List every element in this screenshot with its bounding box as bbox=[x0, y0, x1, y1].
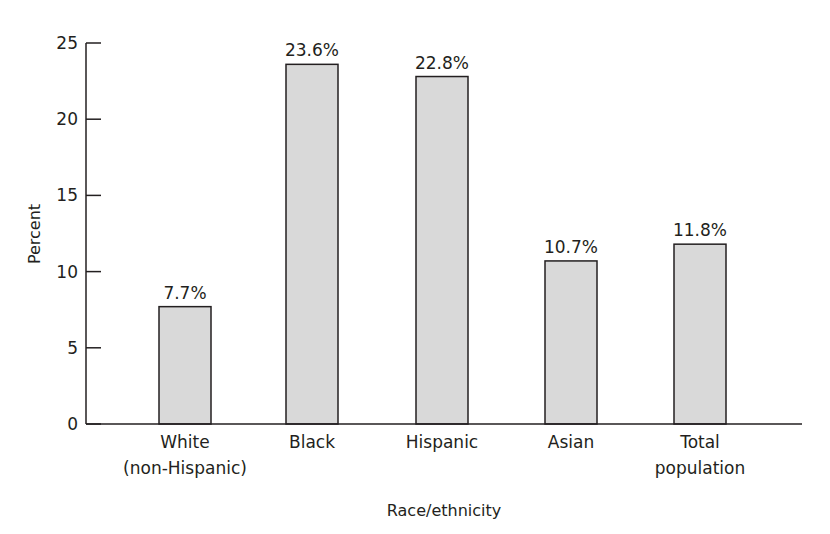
bar-value-label: 11.8% bbox=[673, 220, 727, 240]
bar-group: 11.8% bbox=[673, 220, 727, 424]
bar-value-label: 22.8% bbox=[415, 53, 469, 73]
bar bbox=[674, 244, 726, 424]
bar-group: 23.6% bbox=[285, 40, 339, 424]
bar bbox=[286, 64, 338, 424]
bar-group: 7.7% bbox=[159, 283, 211, 424]
x-axis-title: Race/ethnicity bbox=[387, 501, 501, 520]
x-category-label: population bbox=[655, 458, 745, 478]
y-tick-label: 5 bbox=[67, 338, 78, 358]
x-category-label: Asian bbox=[548, 432, 594, 452]
x-category-label: Hispanic bbox=[406, 432, 478, 452]
y-tick-label: 20 bbox=[56, 109, 78, 129]
bar-value-label: 7.7% bbox=[163, 283, 206, 303]
bar-group: 22.8% bbox=[415, 53, 469, 424]
bar-value-label: 23.6% bbox=[285, 40, 339, 60]
bar bbox=[545, 261, 597, 424]
x-category-label: White bbox=[160, 432, 209, 452]
x-category-label: Black bbox=[289, 432, 335, 452]
y-tick-label: 0 bbox=[67, 414, 78, 434]
y-tick-label: 15 bbox=[56, 185, 78, 205]
y-axis-title: Percent bbox=[25, 204, 44, 264]
x-axis: White(non-Hispanic)BlackHispanicAsianTot… bbox=[86, 424, 802, 478]
bar-value-label: 10.7% bbox=[544, 237, 598, 257]
bar bbox=[159, 307, 211, 424]
bar bbox=[416, 77, 468, 424]
y-axis: 0510152025 bbox=[56, 33, 101, 434]
y-tick-label: 10 bbox=[56, 262, 78, 282]
bar-chart: 0510152025 7.7%23.6%22.8%10.7%11.8% Whit… bbox=[0, 0, 830, 534]
bar-group: 10.7% bbox=[544, 237, 598, 424]
x-category-label: Total bbox=[679, 432, 720, 452]
bars: 7.7%23.6%22.8%10.7%11.8% bbox=[159, 40, 727, 424]
x-category-label: (non-Hispanic) bbox=[123, 458, 247, 478]
y-tick-label: 25 bbox=[56, 33, 78, 53]
